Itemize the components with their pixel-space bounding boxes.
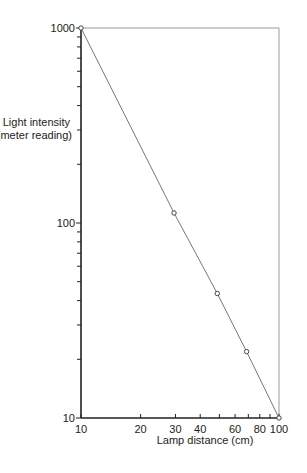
y-axis: 101001000 (51, 22, 81, 424)
log-log-chart: 101001000 102030406080100 Light intensit… (0, 0, 307, 473)
x-tick-label: 10 (75, 423, 87, 435)
data-point-marker (215, 291, 219, 295)
x-tick-label: 20 (134, 423, 146, 435)
y-axis-label-line2: (meter reading) (0, 129, 72, 141)
x-tick-label: 100 (270, 423, 288, 435)
x-axis: 102030406080100 (75, 414, 288, 435)
data-point-marker (277, 416, 281, 420)
data-point-marker (172, 211, 176, 215)
trend-line (81, 28, 279, 418)
data-point-marker (79, 26, 83, 30)
y-axis-label-line1: Light intensity (3, 116, 71, 128)
x-axis-label: Lamp distance (cm) (157, 434, 254, 446)
y-tick-label: 10 (63, 412, 75, 424)
data-point-marker (244, 349, 248, 353)
data-series (79, 26, 281, 420)
y-tick-label: 1000 (51, 22, 75, 34)
x-tick-label: 80 (254, 423, 266, 435)
y-tick-label: 100 (57, 217, 75, 229)
